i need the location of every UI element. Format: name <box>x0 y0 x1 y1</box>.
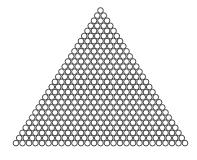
circle <box>94 43 100 49</box>
circle <box>163 140 169 146</box>
circle <box>117 59 123 65</box>
circle <box>59 79 65 85</box>
circle <box>36 135 42 141</box>
circle <box>85 79 91 85</box>
circle <box>140 125 146 131</box>
circle <box>26 130 32 136</box>
circle <box>163 120 169 126</box>
circle <box>117 99 123 105</box>
circle <box>75 135 81 141</box>
circle <box>111 130 117 136</box>
circle <box>91 120 97 126</box>
circle <box>85 38 91 44</box>
circle <box>146 115 152 121</box>
circle <box>68 94 74 100</box>
circle <box>88 94 94 100</box>
circle <box>107 64 113 70</box>
circle <box>104 140 110 146</box>
circle <box>91 89 97 95</box>
circle <box>23 125 29 131</box>
circle <box>107 43 113 49</box>
circle <box>81 115 87 121</box>
circle <box>120 94 126 100</box>
circle <box>72 140 78 146</box>
circle <box>68 105 74 111</box>
circle <box>68 135 74 141</box>
circle <box>75 54 81 60</box>
circle <box>23 135 29 141</box>
circle <box>111 120 117 126</box>
circle <box>65 110 71 116</box>
circle <box>150 110 156 116</box>
circle <box>124 110 130 116</box>
circle <box>52 79 58 85</box>
circle <box>94 64 100 70</box>
circle <box>75 125 81 131</box>
circle <box>78 59 84 65</box>
circle <box>146 125 152 131</box>
circle <box>104 48 110 54</box>
circle <box>88 43 94 49</box>
circle <box>81 64 87 70</box>
circle <box>33 120 39 126</box>
circle <box>107 135 113 141</box>
circle <box>120 54 126 60</box>
circle <box>94 54 100 60</box>
circle <box>59 110 65 116</box>
circle <box>179 135 185 141</box>
circle <box>114 125 120 131</box>
circle <box>39 130 45 136</box>
circle <box>59 120 65 126</box>
circle <box>120 115 126 121</box>
circle <box>55 84 61 90</box>
circle <box>98 140 104 146</box>
circle <box>133 135 139 141</box>
circle <box>130 89 136 95</box>
circle <box>133 74 139 80</box>
circle <box>39 110 45 116</box>
circle <box>85 59 91 65</box>
circle <box>75 43 81 49</box>
circle <box>68 74 74 80</box>
circle <box>98 99 104 105</box>
circle <box>104 38 110 44</box>
circle <box>68 64 74 70</box>
circle <box>91 110 97 116</box>
circle <box>130 99 136 105</box>
circle <box>59 140 65 146</box>
circle <box>172 125 178 131</box>
circle <box>117 38 123 44</box>
circle <box>153 135 159 141</box>
circle <box>94 84 100 90</box>
circle <box>72 110 78 116</box>
circle <box>55 125 61 131</box>
circle <box>107 84 113 90</box>
circle <box>36 105 42 111</box>
circle <box>127 54 133 60</box>
circle <box>107 94 113 100</box>
circle <box>88 54 94 60</box>
circle <box>55 94 61 100</box>
circle <box>166 125 172 131</box>
circle <box>117 140 123 146</box>
circle <box>101 105 107 111</box>
circle <box>78 140 84 146</box>
circle <box>49 84 55 90</box>
circle <box>46 89 52 95</box>
circle <box>156 99 162 105</box>
circle <box>94 135 100 141</box>
circle <box>172 135 178 141</box>
circle <box>156 120 162 126</box>
circle <box>101 54 107 60</box>
circle <box>98 38 104 44</box>
circle <box>124 59 130 65</box>
circle <box>88 84 94 90</box>
circle <box>88 33 94 39</box>
circle <box>130 110 136 116</box>
circle <box>91 38 97 44</box>
circle <box>42 135 48 141</box>
circle <box>107 33 113 39</box>
circle <box>55 135 61 141</box>
circle <box>46 99 52 105</box>
circle <box>114 94 120 100</box>
